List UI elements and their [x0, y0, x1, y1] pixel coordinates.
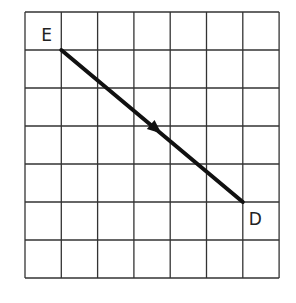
grid-svg	[0, 0, 296, 303]
point-label-E: E	[41, 27, 52, 44]
point-label-D: D	[249, 211, 262, 228]
grid-diagram: E D	[0, 0, 296, 303]
